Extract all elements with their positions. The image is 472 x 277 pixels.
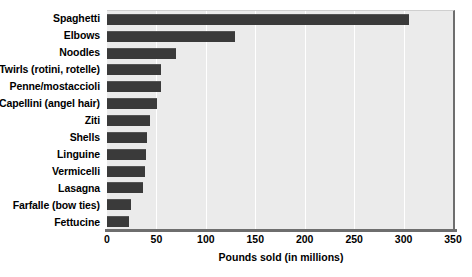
x-tick-label: 250: [345, 233, 363, 245]
category-label: Twirls (rotini, rotelle): [0, 61, 104, 78]
bar: [107, 48, 176, 59]
x-axis-line: [105, 229, 457, 232]
bar: [107, 64, 161, 75]
bar-row: [107, 179, 453, 196]
category-label: Vermicelli: [0, 162, 104, 179]
bar: [107, 115, 150, 126]
bar-row: [107, 112, 453, 129]
bar-row: [107, 129, 453, 146]
category-label: Fettucine: [0, 213, 104, 230]
x-tick-label: 200: [296, 233, 314, 245]
x-tick-label: 50: [151, 233, 163, 245]
x-tick-label: 350: [444, 233, 462, 245]
category-label: Elbows: [0, 27, 104, 44]
x-axis-title: Pounds sold (in millions): [107, 251, 455, 263]
bar-row: [107, 62, 453, 79]
bar: [107, 182, 143, 193]
bar-row: [107, 95, 453, 112]
bar-row: [107, 146, 453, 163]
bar: [107, 216, 129, 227]
x-tick-label: 0: [104, 233, 110, 245]
x-tick-label: 150: [247, 233, 265, 245]
category-label: Capellini (angel hair): [0, 95, 104, 112]
bar: [107, 166, 145, 177]
bar-row: [107, 163, 453, 180]
category-label: Farfalle (bow ties): [0, 196, 104, 213]
category-label: Lasagna: [0, 179, 104, 196]
bar-row: [107, 28, 453, 45]
x-tick-labels: 050100150200250300350: [107, 233, 455, 249]
x-tick-label: 100: [197, 233, 215, 245]
bar: [107, 31, 235, 42]
category-label: Shells: [0, 128, 104, 145]
bar: [107, 14, 409, 25]
bar-row: [107, 196, 453, 213]
category-label: Noodles: [0, 44, 104, 61]
plot-area: [107, 10, 455, 230]
bar-row: [107, 45, 453, 62]
category-label: Penne/mostaccioli: [0, 78, 104, 95]
bar: [107, 149, 146, 160]
category-label: Spaghetti: [0, 10, 104, 27]
bar-series: [107, 11, 453, 230]
category-label: Ziti: [0, 112, 104, 129]
bar-row: [107, 78, 453, 95]
pasta-sales-bar-chart: Spaghetti Elbows Noodles Twirls (rotini,…: [0, 0, 472, 277]
bar: [107, 81, 161, 92]
bar: [107, 98, 157, 109]
bar: [107, 199, 131, 210]
category-label: Linguine: [0, 145, 104, 162]
bar-row: [107, 11, 453, 28]
x-tick-label: 300: [395, 233, 413, 245]
category-axis: Spaghetti Elbows Noodles Twirls (rotini,…: [0, 10, 104, 230]
bar-row: [107, 213, 453, 230]
bar: [107, 132, 147, 143]
